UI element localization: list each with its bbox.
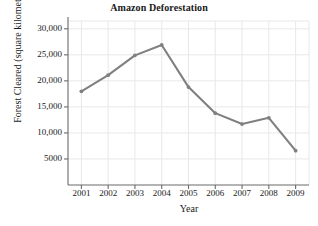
y-tick-label: 15,000 [16,102,62,111]
x-tick-label: 2009 [279,189,313,198]
grid-lines [68,21,309,185]
chart-figure: Amazon Deforestation Forest Cleared (squ… [0,0,318,226]
tick-marks [64,29,296,189]
x-axis-label: Year [68,203,310,214]
y-tick-label: 20,000 [16,76,62,85]
y-tick-label: 25,000 [16,50,62,59]
y-tick-label: 30,000 [16,24,62,33]
y-tick-label: 5000 [16,154,62,163]
y-tick-label: 10,000 [16,128,62,137]
